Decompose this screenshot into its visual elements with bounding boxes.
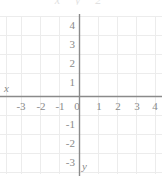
y-tick-label: 4 (55, 20, 75, 31)
x-tick-label: 2 (108, 101, 128, 112)
x-tick-label: 4 (145, 101, 162, 112)
horizontal-grid-lines (0, 17, 162, 173)
coordinate-plane-svg (0, 0, 162, 176)
x-tick-label: 0 (67, 101, 87, 112)
y-tick-label: -1 (55, 119, 75, 130)
coordinate-grid-figure: x y 2 -3 -2 -1 (0, 0, 162, 176)
x-tick-label: 3 (127, 101, 147, 112)
y-tick-label: -3 (55, 157, 75, 168)
x-tick-label: 1 (89, 101, 109, 112)
y-tick-label: -2 (55, 138, 75, 149)
y-axis-label: y (82, 161, 87, 172)
x-axis-label: x (4, 83, 9, 94)
x-tick-label: -2 (31, 101, 51, 112)
y-tick-label: 1 (55, 77, 75, 88)
y-tick-label: 3 (55, 39, 75, 50)
vertical-grid-lines (7, 16, 156, 174)
y-tick-label: 2 (55, 58, 75, 69)
x-tick-label: -3 (11, 101, 31, 112)
